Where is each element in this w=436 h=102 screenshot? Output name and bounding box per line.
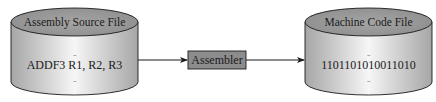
assembly-flow-diagram: Assembly Source File .. ADDF3 R1, R2, R3… (0, 0, 436, 102)
source-ellipsis-bottom: .. (73, 75, 77, 84)
source-file-title: Assembly Source File (24, 16, 126, 29)
assembler-box: Assembler (188, 51, 246, 69)
target-ellipsis-bottom: .. (367, 75, 371, 84)
source-file-cylinder: Assembly Source File .. ADDF3 R1, R2, R3… (11, 8, 138, 95)
target-file-title: Machine Code File (324, 16, 412, 28)
target-ellipsis-top: .. (367, 49, 371, 58)
assembler-label: Assembler (191, 53, 242, 67)
source-ellipsis-top: .. (73, 49, 77, 58)
machine-code-file-cylinder: Machine Code File .. 1101101010011010 .. (305, 8, 432, 95)
target-file-content: 1101101010011010 (321, 58, 416, 72)
source-file-content: ADDF3 R1, R2, R3 (27, 58, 123, 72)
